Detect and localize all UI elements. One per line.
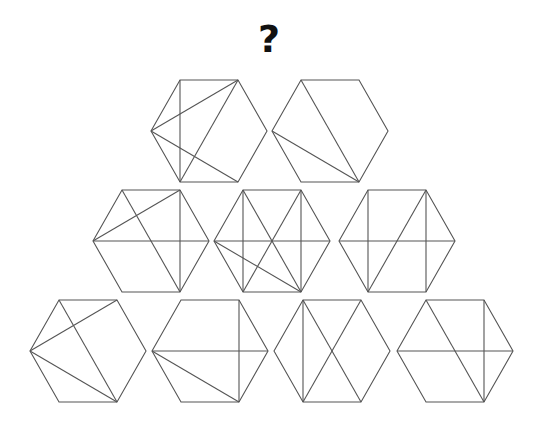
hexagon-e — [339, 190, 455, 292]
diagonal-tr-bl — [180, 80, 238, 182]
hexagon-puzzle — [0, 0, 543, 431]
hexagon-f — [30, 300, 146, 402]
hexagon-i — [397, 300, 513, 402]
diagonal-l-tr — [151, 80, 238, 131]
hexagon-c — [93, 190, 209, 292]
diagonal-tl-br — [301, 80, 359, 182]
diagonal-l-br — [272, 131, 359, 182]
diagonal-l-br — [152, 351, 239, 402]
hexagon-a — [151, 80, 267, 182]
hexagon-b — [272, 80, 388, 182]
diagonal-l-tr — [93, 190, 180, 241]
hexagon-d — [214, 190, 330, 292]
diagonal-tl-br — [59, 300, 117, 402]
diagonal-l-br — [30, 351, 117, 402]
hexagon-g — [152, 300, 268, 402]
diagonal-l-br — [214, 241, 301, 292]
hexagon-h — [274, 300, 390, 402]
